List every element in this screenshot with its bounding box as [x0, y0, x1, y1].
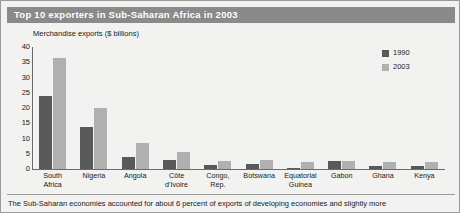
legend-item: 2003	[382, 62, 442, 76]
y-axis-tick: 10	[8, 135, 30, 143]
bar-1990	[39, 96, 52, 169]
y-axis-tick: 30	[8, 74, 30, 82]
y-axis-tick: 5	[8, 150, 30, 158]
bar-group	[78, 47, 114, 169]
bar-group	[244, 47, 280, 169]
bar-group	[161, 47, 197, 169]
page-title: Top 10 exporters in Sub-Saharan Africa i…	[14, 9, 238, 20]
bar-group	[120, 47, 156, 169]
bar-1990	[328, 161, 341, 169]
chart-figure: Top 10 exporters in Sub-Saharan Africa i…	[0, 0, 460, 213]
y-axis-tick: 15	[8, 119, 30, 127]
footer-note: The Sub-Saharan economies accounted for …	[8, 199, 386, 208]
bar-group	[285, 47, 321, 169]
bar-2003	[177, 152, 190, 169]
legend-label: 2003	[393, 62, 410, 71]
chart-legend: 19902003	[382, 48, 442, 76]
bar-2003	[383, 162, 396, 169]
y-axis-tick: 20	[8, 104, 30, 112]
legend-swatch-icon	[382, 64, 389, 71]
bar-group	[326, 47, 362, 169]
x-axis-label: Kenya	[394, 171, 454, 180]
bar-2003	[218, 161, 231, 169]
bar-2003	[53, 58, 66, 169]
bar-1990	[80, 127, 93, 169]
x-axis-category-labels: SouthAfricaNigeriaAngolaCôted'IvoireCong…	[32, 171, 445, 195]
bar-2003	[260, 160, 273, 169]
bar-2003	[301, 162, 314, 169]
chart-subtitle: Merchandise exports ($ billions)	[33, 29, 139, 38]
bar-1990	[369, 166, 382, 169]
bar-1990	[287, 168, 300, 169]
bar-2003	[425, 162, 438, 169]
legend-swatch-icon	[382, 50, 389, 57]
bar-2003	[94, 108, 107, 169]
bar-group	[202, 47, 238, 169]
y-axis-tick: 35	[8, 58, 30, 66]
legend-label: 1990	[393, 48, 410, 57]
legend-item: 1990	[382, 48, 442, 62]
y-axis-tick: 40	[8, 43, 30, 51]
footer-divider	[7, 194, 455, 195]
bar-1990	[246, 164, 259, 169]
bar-2003	[136, 143, 149, 169]
bar-1990	[122, 157, 135, 169]
chart-title-bar: Top 10 exporters in Sub-Saharan Africa i…	[7, 7, 455, 23]
bar-group	[37, 47, 73, 169]
bar-1990	[411, 166, 424, 169]
bar-1990	[163, 160, 176, 169]
bar-1990	[204, 165, 217, 169]
y-axis-tick: 25	[8, 89, 30, 97]
bar-2003	[342, 161, 355, 169]
x-axis-line	[32, 169, 445, 170]
